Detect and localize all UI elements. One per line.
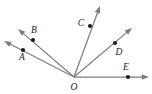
vertex-label-o: O bbox=[71, 82, 78, 92]
ray-OE-arrowhead-icon bbox=[142, 74, 149, 79]
point-label-a: A bbox=[18, 52, 25, 62]
figure-canvas: ABCDEO bbox=[0, 0, 152, 94]
point-label-b: B bbox=[31, 25, 37, 35]
point-dot-c bbox=[88, 24, 92, 28]
point-label-e: E bbox=[122, 62, 129, 72]
point-label-d: D bbox=[115, 47, 123, 57]
point-dots-group bbox=[21, 24, 130, 79]
ray-OC-arrowhead-icon bbox=[95, 6, 100, 14]
point-dot-e bbox=[126, 75, 130, 79]
geometry-figure: ABCDEO bbox=[0, 0, 152, 94]
point-label-c: C bbox=[78, 18, 85, 28]
point-dot-d bbox=[113, 41, 117, 45]
ray-OA-arrowhead-icon bbox=[4, 41, 12, 47]
point-dot-b bbox=[31, 38, 35, 42]
point-labels-group: ABCDEO bbox=[18, 18, 129, 92]
